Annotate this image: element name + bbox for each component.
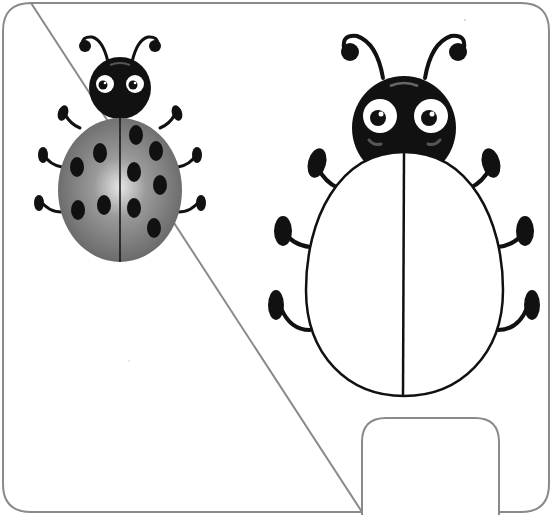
head-icon <box>89 57 151 119</box>
outline-ladybug[interactable] <box>268 36 540 396</box>
bottom-tab[interactable] <box>362 418 499 515</box>
antenna-icon <box>344 36 464 78</box>
worksheet-canvas <box>0 0 552 515</box>
example-ladybug <box>34 37 206 262</box>
shell-outline-icon[interactable] <box>306 152 503 396</box>
